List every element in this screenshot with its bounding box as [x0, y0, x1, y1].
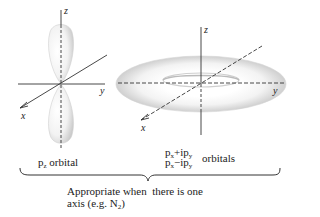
- pz-orbital-label: pz orbital: [38, 157, 78, 168]
- right-z-axis-label: z: [204, 24, 208, 35]
- px-minus-ipy: px−ipy: [165, 157, 192, 167]
- grouping-brace: [20, 168, 280, 181]
- right-x-axis-label: x: [141, 122, 145, 133]
- left-z-axis-label: z: [64, 5, 68, 16]
- caption: Appropriate when there is one axis (e.g.…: [67, 185, 203, 209]
- right-y-axis-label: y: [273, 85, 277, 96]
- caption-line-1: Appropriate when there is one: [67, 185, 203, 197]
- caption-line-2: axis (e.g. N2): [67, 197, 203, 209]
- left-y-axis-label: y: [100, 85, 104, 96]
- left-x-axis-label: x: [21, 110, 25, 121]
- orbitals-suffix-label: orbitals: [202, 153, 235, 164]
- px-ipy-label: px+ipy px−ipy: [165, 147, 192, 167]
